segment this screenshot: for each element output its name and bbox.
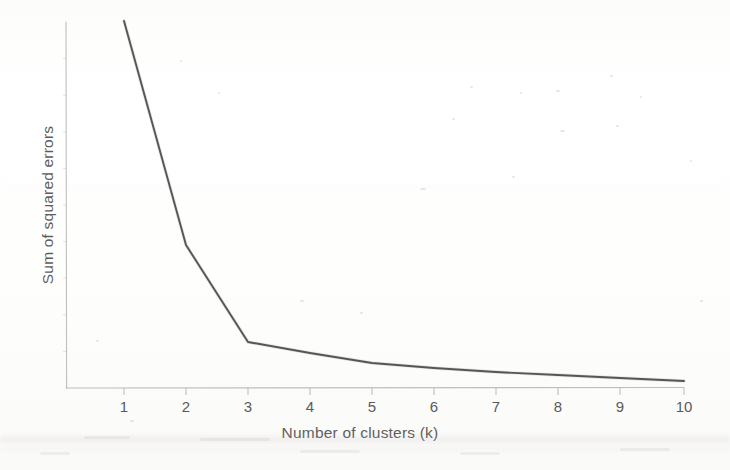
x-axis-line bbox=[66, 388, 684, 389]
x-tick-label-7: 7 bbox=[481, 398, 511, 415]
sse-data-line bbox=[124, 21, 684, 381]
x-tick-label-10: 10 bbox=[669, 398, 699, 415]
x-tick-label-6: 6 bbox=[419, 398, 449, 415]
x-tick-label-5: 5 bbox=[357, 398, 387, 415]
x-tick-label-3: 3 bbox=[233, 398, 263, 415]
x-axis-title: Number of clusters (k) bbox=[0, 424, 730, 442]
x-tick-label-4: 4 bbox=[295, 398, 325, 415]
y-axis-line bbox=[66, 22, 67, 388]
x-tick-label-8: 8 bbox=[543, 398, 573, 415]
x-tick-label-1: 1 bbox=[109, 398, 139, 415]
x-tick-label-9: 9 bbox=[605, 398, 635, 415]
x-tick-label-2: 2 bbox=[171, 398, 201, 415]
chart-page: Sum of squared errors Number of clusters… bbox=[0, 0, 730, 470]
sse-data-line-halo bbox=[124, 21, 684, 381]
y-axis-title: Sum of squared errors bbox=[39, 95, 57, 315]
